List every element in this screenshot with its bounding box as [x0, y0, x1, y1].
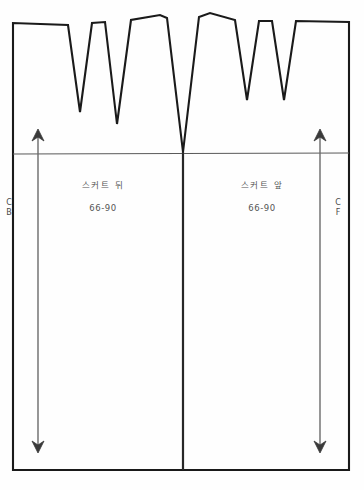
center-back-marker: C B	[3, 198, 15, 218]
center-front-marker: C F	[332, 198, 344, 218]
pattern-drawing	[0, 0, 364, 490]
front-panel-outline	[183, 13, 349, 470]
back-panel-title: 스커트 뒤	[43, 180, 163, 190]
front-panel-label-group: 스커트 앞 66-90	[202, 180, 322, 213]
back-panel-label-group: 스커트 뒤 66-90	[43, 180, 163, 213]
pattern-sheet: 스커트 뒤 66-90 스커트 앞 66-90 C B C F	[0, 0, 364, 490]
center-back-marker-line2: B	[3, 208, 15, 218]
front-panel-title: 스커트 앞	[202, 180, 322, 190]
grainline-arrow-front	[314, 129, 326, 453]
back-panel-size: 66-90	[43, 203, 163, 213]
grainline-arrow-back	[32, 129, 44, 453]
center-front-marker-line2: F	[332, 208, 344, 218]
center-back-marker-line1: C	[3, 198, 15, 208]
front-panel-size: 66-90	[202, 203, 322, 213]
hip-line	[13, 153, 349, 154]
center-front-marker-line1: C	[332, 198, 344, 208]
